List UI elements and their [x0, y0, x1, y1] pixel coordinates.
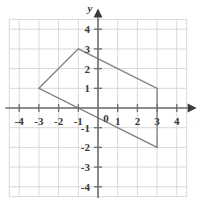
- x-axis-arrow-icon: [188, 104, 197, 113]
- x-tick-label: 1: [115, 115, 121, 127]
- y-tick-label: -2: [81, 141, 91, 153]
- x-tick-label: -2: [54, 115, 64, 127]
- y-tick-label: -4: [81, 181, 91, 193]
- x-tick-label: 4: [174, 115, 180, 127]
- x-tick-label: 3: [154, 115, 160, 127]
- y-axis-label: y: [86, 2, 93, 14]
- origin-label: 0: [103, 112, 109, 124]
- y-tick-label: 3: [85, 43, 91, 55]
- x-tick-label: 2: [135, 115, 141, 127]
- y-axis-arrow-icon: [94, 8, 103, 17]
- coordinate-plot-svg: -4-3-2-112344321-1-2-3-40xy: [0, 0, 199, 198]
- y-tick-label: 2: [85, 63, 91, 75]
- y-tick-label: -3: [81, 161, 91, 173]
- x-axis-label: x: [198, 114, 199, 126]
- y-tick-label: 1: [85, 82, 91, 94]
- x-tick-label: -3: [34, 115, 44, 127]
- y-tick-label: -1: [81, 122, 90, 134]
- x-tick-label: -4: [15, 115, 25, 127]
- y-tick-label: 4: [85, 23, 91, 35]
- coordinate-plane-figure: -4-3-2-112344321-1-2-3-40xy: [0, 0, 199, 198]
- axes: [5, 8, 196, 198]
